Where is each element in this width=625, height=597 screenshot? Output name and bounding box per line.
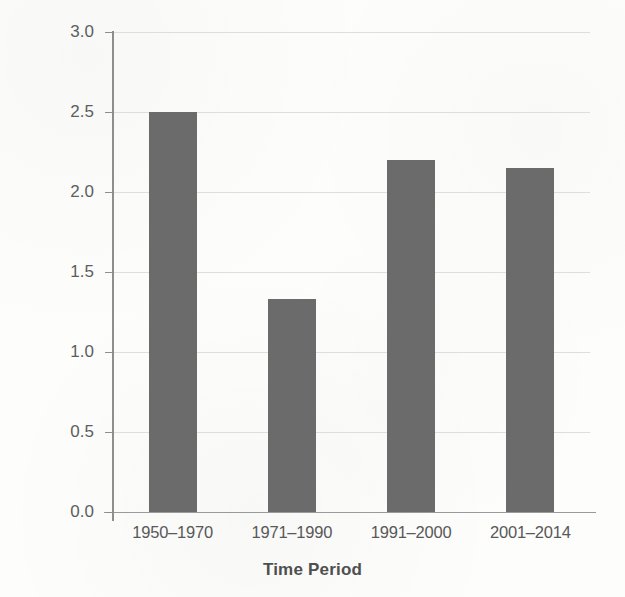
y-axis-tick: [105, 432, 114, 433]
y-axis-tick-label: 2.0: [38, 182, 94, 202]
y-axis-tick-label: 2.5: [38, 102, 94, 122]
bar-chart-figure: Productivity Growth (%) 0.00.51.01.52.02…: [0, 0, 625, 597]
x-axis-tick-label: 2001–2014: [460, 523, 600, 542]
plot-area: [113, 32, 590, 512]
bar: [506, 168, 554, 512]
x-axis-origin-tick: [112, 512, 114, 521]
y-axis-tick-label: 0.5: [38, 422, 94, 442]
gridline: [113, 32, 590, 33]
y-axis-tick: [105, 512, 114, 513]
y-axis-tick: [105, 192, 114, 193]
y-axis-tick-label: 1.0: [38, 342, 94, 362]
y-axis-tick: [105, 352, 114, 353]
y-axis-title: Productivity Growth (%): [0, 0, 40, 597]
y-axis-tick: [105, 272, 114, 273]
y-axis-tick-label: 3.0: [38, 22, 94, 42]
bar: [149, 112, 197, 512]
y-axis-tick: [105, 32, 114, 33]
y-axis-tick-label: 0.0: [38, 502, 94, 522]
bar: [387, 160, 435, 512]
x-axis-line: [104, 512, 596, 513]
x-axis-title: Time Period: [0, 560, 625, 580]
y-axis-tick: [105, 112, 114, 113]
y-axis-tick-label: 1.5: [38, 262, 94, 282]
bar: [268, 299, 316, 512]
